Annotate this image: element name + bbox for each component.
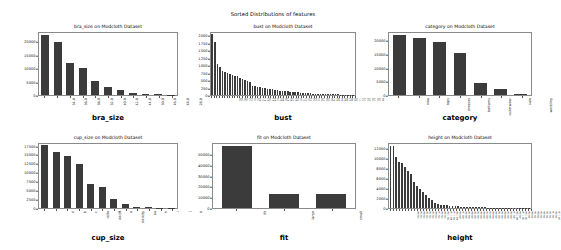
y-tick-label: 500 xyxy=(190,79,208,83)
y-tick-mark xyxy=(36,191,38,192)
bar xyxy=(224,72,226,95)
x-tick-mark xyxy=(232,96,233,98)
x-tick-mark xyxy=(214,96,215,98)
x-tick-mark xyxy=(216,96,217,98)
bar xyxy=(53,152,60,208)
x-tick-mark xyxy=(393,209,394,211)
y-tick-label: 2000 xyxy=(370,197,386,201)
x-tick-mark xyxy=(528,209,529,211)
plot-area-bra_size xyxy=(38,32,178,96)
bar xyxy=(478,207,480,208)
bar-series-fit xyxy=(213,144,355,208)
bar xyxy=(433,42,446,95)
y-tick-mark xyxy=(208,73,210,74)
bar xyxy=(142,94,150,95)
y-tick-mark xyxy=(210,165,212,166)
bar xyxy=(419,189,421,208)
bar xyxy=(247,81,249,95)
bar xyxy=(279,91,281,96)
bar xyxy=(474,83,487,95)
x-tick-mark xyxy=(91,209,92,211)
bar xyxy=(122,204,129,208)
x-tick-mark xyxy=(522,96,523,98)
x-tick-mark xyxy=(411,209,412,211)
bar xyxy=(463,207,465,208)
bar xyxy=(237,76,239,95)
chart-title-cup_size: cup_size on Modcloth Dataset xyxy=(38,135,178,140)
bar xyxy=(272,89,274,95)
bar xyxy=(310,93,312,95)
x-tick-mark xyxy=(280,96,281,98)
x-tick-mark xyxy=(324,96,325,98)
bar xyxy=(404,167,406,209)
bar xyxy=(133,207,140,208)
bar xyxy=(475,207,477,208)
x-tick-mark xyxy=(332,96,333,98)
figure-suptitle: Sorted Distributions of features xyxy=(0,11,546,17)
y-tick-label: 5000 xyxy=(370,80,386,84)
bar xyxy=(449,206,451,209)
chart-panel-height: height on Modcloth Dataset02000400060008… xyxy=(366,135,538,245)
bar xyxy=(307,93,309,95)
x-tick-mark xyxy=(342,96,343,98)
bar xyxy=(514,94,527,95)
bar xyxy=(249,82,251,95)
y-tick-label: 20000 xyxy=(20,40,36,44)
x-tick-mark xyxy=(70,96,71,98)
bar xyxy=(267,89,269,95)
x-tick-mark xyxy=(329,96,330,98)
bar xyxy=(425,195,427,209)
bar xyxy=(214,42,216,95)
y-tick-label: 1250 xyxy=(190,57,208,61)
x-tick-mark xyxy=(245,96,246,98)
x-tick-mark xyxy=(498,209,499,211)
y-tick-mark xyxy=(208,58,210,59)
bar xyxy=(327,94,329,95)
bar xyxy=(312,94,314,95)
y-tick-mark xyxy=(386,209,388,210)
x-tick-mark xyxy=(486,209,487,211)
x-tick-mark xyxy=(265,96,266,98)
bar xyxy=(252,86,254,95)
bar xyxy=(455,206,457,208)
x-tick-mark xyxy=(483,209,484,211)
y-tick-mark xyxy=(36,155,38,156)
x-tick-mark xyxy=(316,96,317,98)
bar xyxy=(145,207,152,208)
chart-title-fit: fit on Modcloth Dataset xyxy=(212,135,356,140)
y-tick-label: 10000 xyxy=(370,157,386,161)
bar xyxy=(337,94,339,95)
bar xyxy=(317,94,319,95)
x-tick-mark xyxy=(278,96,279,98)
bar xyxy=(316,194,346,208)
y-tick-mark xyxy=(208,96,210,97)
bar xyxy=(277,90,279,95)
x-tick-label: 2ft 11in xyxy=(558,211,561,237)
x-tick-mark xyxy=(161,209,162,211)
y-tick-mark xyxy=(36,209,38,210)
x-tick-mark xyxy=(250,96,251,98)
x-tick-mark xyxy=(337,96,338,98)
bar xyxy=(413,38,426,95)
x-tick-mark xyxy=(450,209,451,211)
x-tick-mark xyxy=(480,209,481,211)
bar xyxy=(154,94,162,95)
bar xyxy=(274,90,276,95)
bar xyxy=(315,94,317,95)
bar xyxy=(484,207,486,208)
x-tick-mark xyxy=(239,96,240,98)
y-tick-label: 20000 xyxy=(370,39,386,43)
x-tick-mark xyxy=(211,96,212,98)
plot-area-height xyxy=(388,143,532,209)
x-tick-mark xyxy=(224,96,225,98)
chart-panel-bra_size: bra_size on Modcloth Dataset050001000015… xyxy=(16,24,180,125)
bar xyxy=(416,186,418,208)
x-tick-mark xyxy=(465,209,466,211)
y-tick-mark xyxy=(36,164,38,165)
y-tick-label: 1000 xyxy=(190,64,208,68)
bar xyxy=(332,94,334,95)
x-tick-mark xyxy=(399,209,400,211)
bar xyxy=(242,79,244,95)
bar xyxy=(302,93,304,95)
x-tick-mark xyxy=(339,96,340,98)
